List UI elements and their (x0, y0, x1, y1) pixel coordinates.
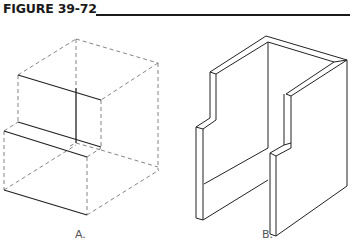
view-b-drawing (196, 36, 347, 236)
inner-rim (216, 42, 334, 94)
view-a-drawing (4, 39, 159, 215)
hidden-lines (4, 39, 159, 215)
figure-drawings (0, 0, 354, 243)
view-b-label: B. (262, 228, 273, 241)
view-a-label: A. (75, 228, 86, 241)
visible-lines (4, 75, 101, 215)
outer-rim (210, 36, 347, 236)
